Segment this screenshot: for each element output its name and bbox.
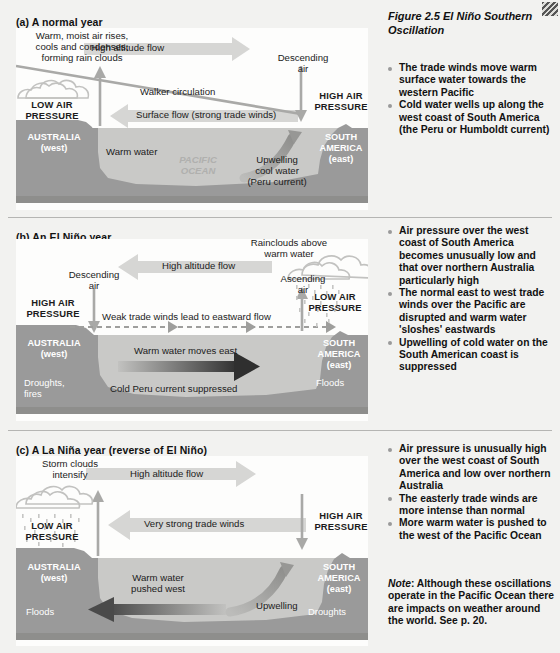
label-droughts-fires: Droughts, fires [24, 377, 65, 399]
note-item: The trade winds move warm surface water … [388, 62, 556, 99]
label-australia-c: AUSTRALIA (west) [16, 562, 92, 584]
note-item: Air pressure is unusually high over the … [388, 443, 556, 493]
note-item: Air pressure over the west coast of Sout… [388, 225, 556, 287]
label-low-pressure-c: LOW AIR PRESSURE [16, 520, 88, 542]
note-item: More warm water is pushed to the west of… [388, 517, 556, 542]
panel-c-title: (c) A La Niña year (reverse of El Niño) [16, 444, 207, 456]
label-strong-trade-winds: Very strong trade winds [144, 518, 244, 529]
panel-el-nino-year: (b) An El Niño year [0, 217, 380, 430]
diagram-c-svg [16, 456, 368, 646]
label-high-altitude-flow-a: High altitude flow [91, 42, 164, 53]
figure-caption: Figure 2.5 El Niño Southern Oscillation [388, 10, 556, 37]
diagram-b: Rainclouds above warm water High altitud… [16, 239, 368, 421]
label-warm-water-east: Warm water moves east [134, 345, 237, 356]
note-item: The normal east to west trade winds over… [388, 287, 556, 337]
label-pacific-ocean: PACIFIC OCEAN [166, 154, 230, 176]
label-floods-b: Floods [316, 377, 344, 388]
label-upwelling-a: Upwelling cool water (Peru current) [222, 154, 332, 187]
notes-list-b: Air pressure over the west coast of Sout… [388, 225, 556, 374]
label-high-pressure-a: HIGH AIR PRESSURE [310, 90, 372, 112]
label-cold-peru-suppressed: Cold Peru current suppressed [110, 383, 237, 394]
notes-el-nino-year: Air pressure over the west coast of Sout… [388, 225, 556, 374]
panel-a-title: (a) A normal year [16, 16, 103, 28]
label-descending-air-a: Descending air [260, 52, 346, 74]
diagram-c: Storm clouds intensify High altitude flo… [16, 456, 368, 646]
label-warm-water-west: Warm water pushed west [104, 572, 212, 594]
label-low-pressure-b: LOW AIR PRESSURE [302, 291, 368, 313]
label-upwelling-c: Upwelling [256, 600, 298, 611]
label-descending-air-b: Descending air [52, 269, 136, 291]
label-australia-a: AUSTRALIA (west) [16, 132, 92, 154]
label-surface-flow: Surface flow (strong trade winds) [136, 109, 276, 120]
label-high-pressure-b: HIGH AIR PRESSURE [16, 297, 90, 319]
note-item: Cold water wells up along the west coast… [388, 99, 556, 136]
notes-list-a: The trade winds move warm surface water … [388, 62, 556, 136]
notes-list-c: Air pressure is unusually high over the … [388, 443, 556, 542]
label-rainclouds-b: Rainclouds above warm water [234, 237, 344, 259]
figure-footnote: Note: Although these oscillations operat… [388, 578, 556, 628]
label-high-pressure-c: HIGH AIR PRESSURE [310, 510, 372, 532]
note-item: The easterly trade winds are more intens… [388, 493, 556, 518]
label-high-altitude-flow-c: High altitude flow [130, 468, 203, 479]
label-warm-water-a: Warm water [106, 146, 157, 157]
notes-normal-year: The trade winds move warm surface water … [388, 62, 556, 136]
label-south-america-c: SOUTH AMERICA (east) [310, 562, 368, 595]
label-droughts-c: Droughts [308, 606, 346, 617]
label-walker-circulation: Walker circulation [140, 86, 215, 97]
label-weak-trade-winds: Weak trade winds lead to eastward flow [102, 311, 271, 322]
label-australia-b: AUSTRALIA (west) [16, 338, 92, 360]
panel-la-nina-year: (c) A La Niña year (reverse of El Niño) [0, 430, 380, 653]
figure-page: Figure 2.5 El Niño Southern Oscillation … [0, 0, 560, 653]
notes-la-nina-year: Air pressure is unusually high over the … [388, 443, 556, 542]
label-low-pressure-a: LOW AIR PRESSURE [16, 99, 88, 121]
panel-normal-year: (a) A normal year [0, 0, 380, 217]
label-south-america-b: SOUTH AMERICA (east) [310, 338, 368, 371]
note-item: Upwelling of cold water on the South Ame… [388, 337, 556, 374]
footnote-label: Note [388, 578, 411, 589]
diagram-a: Warm, moist air rises, cools and condens… [16, 28, 368, 210]
label-storm-clouds: Storm clouds intensify [18, 458, 122, 480]
label-high-altitude-flow-b: High altitude flow [162, 260, 235, 271]
label-floods-c: Floods [26, 606, 54, 617]
footnote-text: : Although these oscillations operate in… [388, 578, 554, 626]
